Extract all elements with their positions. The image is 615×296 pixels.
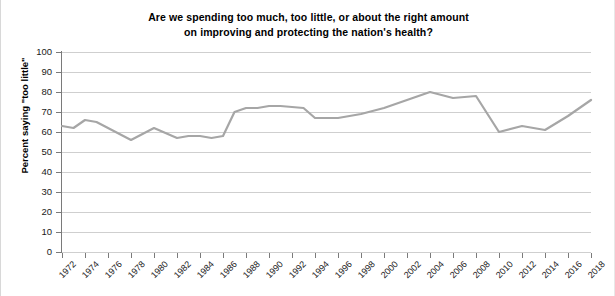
x-tick-mark	[62, 253, 63, 258]
chart-title-line-1: Are we spending too much, too little, or…	[148, 11, 469, 23]
y-tick-label: 30	[1, 187, 52, 197]
chart-title: Are we spending too much, too little, or…	[1, 10, 615, 40]
y-tick-label: 100	[1, 47, 52, 57]
x-tick-mark	[499, 253, 500, 258]
x-tick-mark	[223, 253, 224, 258]
y-tick-label: 40	[1, 167, 52, 177]
x-tick-mark	[315, 253, 316, 258]
y-tick-label: 20	[1, 207, 52, 217]
x-tick-mark	[453, 253, 454, 258]
line-series-too-little	[62, 92, 591, 140]
x-tick-mark	[131, 253, 132, 258]
y-tick-label: 90	[1, 67, 52, 77]
x-tick-mark	[476, 253, 477, 258]
y-tick-label: 70	[1, 107, 52, 117]
x-tick-mark	[108, 253, 109, 258]
gridline	[62, 252, 591, 253]
x-tick-mark	[85, 253, 86, 258]
line-series-svg	[62, 52, 591, 252]
y-tick-label: 0	[1, 247, 52, 257]
x-tick-mark	[591, 253, 592, 258]
y-tick-label: 10	[1, 227, 52, 237]
x-tick-mark	[430, 253, 431, 258]
x-tick-mark	[384, 253, 385, 258]
x-tick-mark	[269, 253, 270, 258]
y-tick-label: 50	[1, 147, 52, 157]
x-tick-mark	[292, 253, 293, 258]
y-tick-label: 60	[1, 127, 52, 137]
x-tick-mark	[154, 253, 155, 258]
x-tick-mark	[338, 253, 339, 258]
x-tick-mark	[246, 253, 247, 258]
y-tick-label: 80	[1, 87, 52, 97]
x-tick-mark	[568, 253, 569, 258]
chart-title-line-2: on improving and protecting the nation's…	[1, 25, 615, 40]
x-tick-mark	[200, 253, 201, 258]
x-tick-mark	[407, 253, 408, 258]
x-tick-mark	[177, 253, 178, 258]
x-tick-mark	[545, 253, 546, 258]
x-tick-mark	[361, 253, 362, 258]
plot-area	[62, 52, 591, 252]
chart-figure: Are we spending too much, too little, or…	[0, 0, 615, 296]
x-tick-mark	[522, 253, 523, 258]
